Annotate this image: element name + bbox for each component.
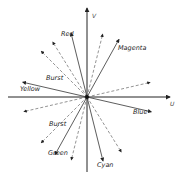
label-yellow: Yellow <box>20 85 41 93</box>
label-magenta: Magenta <box>118 44 146 52</box>
dashed-vector-unlabeled-1 <box>53 42 87 97</box>
vector-red <box>71 33 87 97</box>
uv-vector-diagram: V U Red Magenta Burst Yellow Blue Burst … <box>0 0 179 177</box>
label-green: Green <box>48 149 68 157</box>
dashed-vector-unlabeled-7 <box>87 97 121 152</box>
vector-magenta <box>87 39 119 97</box>
label-red: Red <box>61 30 75 38</box>
dashed-vector-unlabeled-6 <box>71 97 87 160</box>
dashed-vector-unlabeled-3 <box>87 82 150 97</box>
v-axis-label: V <box>92 12 97 19</box>
label-cyan: Cyan <box>97 161 114 169</box>
dashed-vector-unlabeled-0 <box>87 34 103 97</box>
dashed-vector-unlabeled-4 <box>24 97 87 112</box>
vector-cyan <box>87 97 103 161</box>
u-axis-label: U <box>170 100 175 107</box>
label-blue: Blue <box>133 108 147 116</box>
label-burst-lower: Burst <box>49 120 67 128</box>
origin-point <box>85 95 89 99</box>
label-burst-upper: Burst <box>46 74 64 82</box>
